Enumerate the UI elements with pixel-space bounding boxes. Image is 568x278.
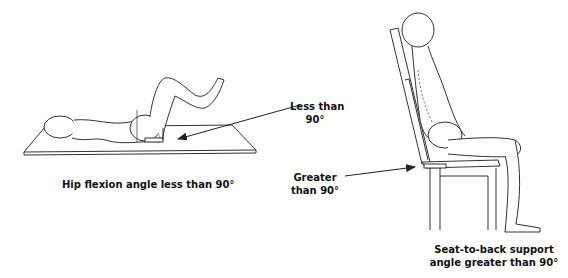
greater-than-arrow: [345, 167, 415, 176]
head: [402, 13, 434, 47]
callout-line-1: Less than: [290, 100, 340, 113]
illustration: [0, 0, 568, 278]
caption-text: Hip flexion angle less than 90°: [62, 179, 234, 190]
chair-legs: [430, 168, 496, 230]
caption-line-2: angle greater than 90°: [424, 256, 564, 269]
wedge-block: [145, 138, 163, 142]
callout-line-1: Greater: [290, 171, 340, 184]
seat-to-back-caption: Seat-to-back support angle greater than …: [424, 243, 564, 269]
callout-line-2: 90°: [290, 113, 340, 126]
lower-leg: [505, 140, 540, 232]
less-than-callout: Less than 90°: [290, 100, 340, 126]
supine-figure-drawing: [24, 78, 256, 155]
caption-line-1: Seat-to-back support: [424, 243, 564, 256]
callout-line-2: than 90°: [290, 184, 340, 197]
head: [44, 116, 76, 138]
hip-flexion-caption: Hip flexion angle less than 90°: [62, 178, 234, 191]
seated-figure-drawing: [390, 13, 540, 232]
greater-than-callout: Greater than 90°: [290, 171, 340, 197]
